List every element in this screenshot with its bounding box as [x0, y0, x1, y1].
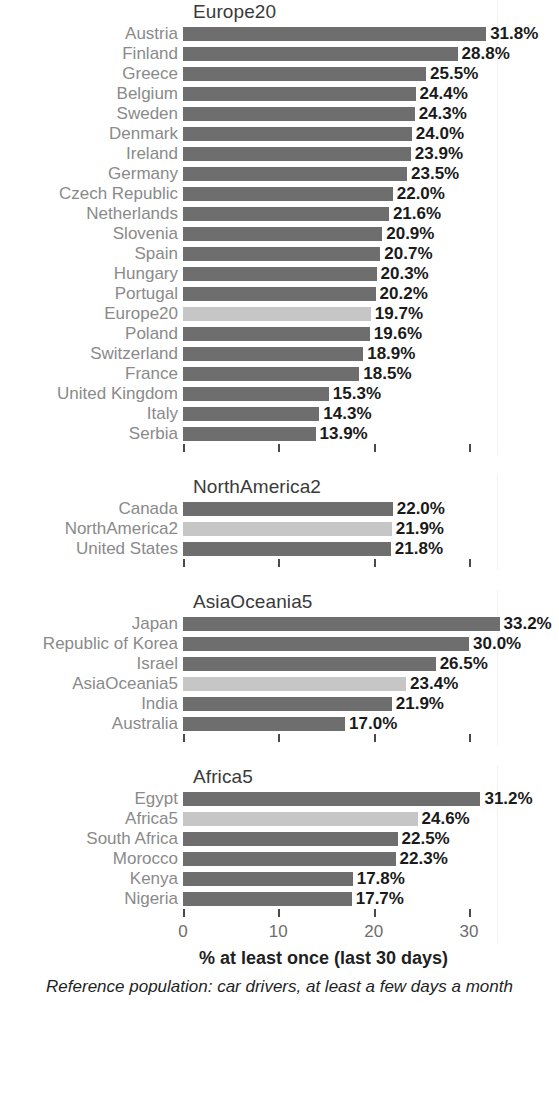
bar-category-label: France: [0, 364, 178, 384]
table-row: United States21.8%: [0, 539, 559, 559]
x-axis-tick-label: 0: [178, 920, 187, 943]
x-axis-ticks: [0, 559, 559, 570]
bar-value-label: 22.0%: [393, 184, 445, 204]
panel-title: Europe20: [0, 0, 559, 24]
panel-spacer: [0, 455, 559, 475]
bar-category-label: Finland: [0, 44, 178, 64]
bar: [183, 187, 393, 201]
x-axis-ticks: [0, 444, 559, 455]
x-axis-tick: [278, 444, 280, 452]
table-row: Nigeria17.7%: [0, 889, 559, 909]
bar: [183, 852, 396, 866]
x-axis-tick: [374, 734, 376, 742]
table-row: Spain20.7%: [0, 244, 559, 264]
table-row: Switzerland18.9%: [0, 344, 559, 364]
panel-spacer: [0, 570, 559, 590]
panel-title: NorthAmerica2: [0, 475, 559, 499]
bar: [183, 387, 329, 401]
bar: [183, 892, 352, 906]
bar-category-label: Serbia: [0, 424, 178, 444]
chart-panel-asiaoceania5: AsiaOceania5Japan33.2%Republic of Korea3…: [0, 590, 559, 745]
bar-category-label: Kenya: [0, 869, 178, 889]
chart-panel-northamerica2: NorthAmerica2Canada22.0%NorthAmerica221.…: [0, 475, 559, 570]
table-row: Serbia13.9%: [0, 424, 559, 444]
bar: [183, 637, 469, 651]
x-axis-tick: [183, 909, 185, 917]
bar: [183, 347, 363, 361]
x-axis-tick: [278, 909, 280, 917]
bar-category-label: Canada: [0, 499, 178, 519]
bar: [183, 502, 393, 516]
bar-value-label: 22.3%: [396, 849, 448, 869]
bar-value-label: 21.9%: [392, 519, 444, 539]
x-axis-tick: [183, 734, 185, 742]
bar-category-label: Austria: [0, 24, 178, 44]
bar-category-label: United States: [0, 539, 178, 559]
bar-value-label: 28.8%: [458, 44, 510, 64]
bar-category-label: Japan: [0, 614, 178, 634]
bar: [183, 27, 486, 41]
bar-category-label: Belgium: [0, 84, 178, 104]
table-row: Africa524.6%: [0, 809, 559, 829]
bar-value-label: 23.4%: [406, 674, 458, 694]
bar-value-label: 23.9%: [411, 144, 463, 164]
bar-value-label: 17.7%: [352, 889, 404, 909]
bar-category-label: Morocco: [0, 849, 178, 869]
panel-rows: Egypt31.2%Africa524.6%South Africa22.5%M…: [0, 789, 559, 909]
bar-category-label: Czech Republic: [0, 184, 178, 204]
bar-value-label: 22.0%: [393, 499, 445, 519]
table-row: Ireland23.9%: [0, 144, 559, 164]
table-row: South Africa22.5%: [0, 829, 559, 849]
bar: [183, 872, 353, 886]
x-axis-tick: [183, 559, 185, 567]
table-row: Hungary20.3%: [0, 264, 559, 284]
table-row: Austria31.8%: [0, 24, 559, 44]
bar: [183, 47, 458, 61]
bar-category-label: Slovenia: [0, 224, 178, 244]
bar: [183, 522, 392, 536]
table-row: Kenya17.8%: [0, 869, 559, 889]
table-row: AsiaOceania523.4%: [0, 674, 559, 694]
panel-rows: Austria31.8%Finland28.8%Greece25.5%Belgi…: [0, 24, 559, 444]
bar-value-label: 24.6%: [418, 809, 470, 829]
table-row: NorthAmerica221.9%: [0, 519, 559, 539]
bar: [183, 832, 398, 846]
bar-value-label: 30.0%: [469, 634, 521, 654]
table-row: Belgium24.4%: [0, 84, 559, 104]
bar: [183, 327, 370, 341]
bar: [183, 542, 391, 556]
bar: [183, 287, 376, 301]
chart-panel-europe20: Europe20Austria31.8%Finland28.8%Greece25…: [0, 0, 559, 455]
bar-category-label: Denmark: [0, 124, 178, 144]
bar-category-label: Portugal: [0, 284, 178, 304]
table-row: Canada22.0%: [0, 499, 559, 519]
bar-value-label: 31.2%: [480, 789, 532, 809]
bar-category-label: NorthAmerica2: [0, 519, 178, 539]
bar-category-label: Spain: [0, 244, 178, 264]
bar-value-label: 26.5%: [436, 654, 488, 674]
bar: [183, 697, 392, 711]
bar-value-label: 18.5%: [359, 364, 411, 384]
bar: [183, 677, 406, 691]
table-row: Sweden24.3%: [0, 104, 559, 124]
bar-value-label: 25.5%: [426, 64, 478, 84]
table-row: Australia17.0%: [0, 714, 559, 734]
panel-rows: Canada22.0%NorthAmerica221.9%United Stat…: [0, 499, 559, 559]
bar-category-label: United Kingdom: [0, 384, 178, 404]
bar: [183, 427, 316, 441]
bar-category-label: Republic of Korea: [0, 634, 178, 654]
bar-value-label: 21.6%: [389, 204, 441, 224]
table-row: Greece25.5%: [0, 64, 559, 84]
x-axis-tick: [469, 559, 471, 567]
x-axis-tick-labels: 0102030: [0, 920, 559, 943]
bar-value-label: 17.8%: [353, 869, 405, 889]
bar-category-label: Germany: [0, 164, 178, 184]
bar: [183, 147, 411, 161]
table-row: United Kingdom15.3%: [0, 384, 559, 404]
bar-value-label: 20.2%: [376, 284, 428, 304]
table-row: Egypt31.2%: [0, 789, 559, 809]
bar-category-label: Israel: [0, 654, 178, 674]
bar-category-label: Africa5: [0, 809, 178, 829]
table-row: Denmark24.0%: [0, 124, 559, 144]
x-axis-title: % at least once (last 30 days): [0, 943, 559, 973]
